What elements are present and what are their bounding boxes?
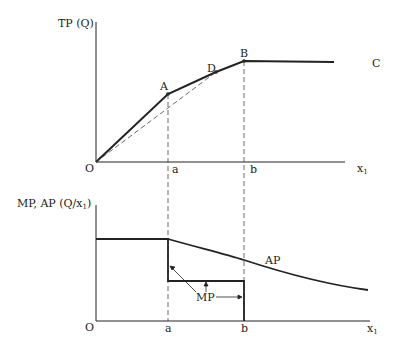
ap-label: AP bbox=[264, 254, 281, 267]
bottom-y-axis-label: MP, AP (Q/x1) bbox=[17, 197, 91, 211]
point-c-label: C bbox=[372, 57, 380, 70]
production-diagram: TP (Q) O x1 a b A D B C MP, AP (Q/x1) O … bbox=[0, 0, 393, 347]
ray-origin-to-d bbox=[96, 72, 216, 162]
top-y-axis-label: TP (Q) bbox=[58, 17, 94, 30]
point-b-label: B bbox=[240, 47, 248, 60]
tp-curve bbox=[96, 61, 334, 162]
point-d-label: D bbox=[207, 62, 216, 75]
mp-label: MP bbox=[196, 291, 215, 304]
arrowhead-icon bbox=[170, 266, 175, 270]
top-tick-a: a bbox=[172, 163, 179, 176]
top-chart: TP (Q) O x1 a b A D B C bbox=[58, 17, 380, 176]
bottom-origin-label: O bbox=[85, 321, 94, 334]
arrowhead-icon bbox=[204, 282, 208, 286]
arrowhead-icon bbox=[238, 295, 242, 299]
top-x-axis-label: x1 bbox=[357, 162, 368, 176]
bottom-chart: MP, AP (Q/x1) O x1 a b AP MP bbox=[17, 197, 378, 336]
ap-curve bbox=[96, 239, 368, 290]
mp-arrow-to-vertical-a bbox=[171, 267, 196, 292]
top-tick-b: b bbox=[250, 163, 257, 176]
bottom-tick-a: a bbox=[165, 322, 172, 335]
bottom-x-axis-label: x1 bbox=[367, 322, 378, 336]
point-a-label: A bbox=[159, 80, 169, 93]
top-origin-label: O bbox=[85, 162, 94, 175]
bottom-tick-b: b bbox=[241, 322, 248, 335]
mp-curve bbox=[96, 239, 244, 321]
